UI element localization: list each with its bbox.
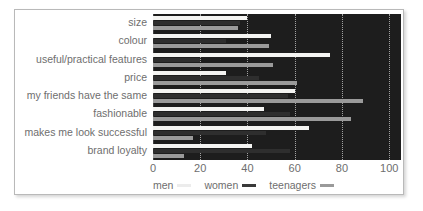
- bar-teenagers: [153, 99, 363, 103]
- legend-label: women: [204, 180, 238, 191]
- bar-teenagers: [153, 117, 351, 121]
- legend-item-women[interactable]: women: [204, 180, 256, 191]
- bar-women: [153, 112, 290, 116]
- bar-women: [153, 94, 288, 98]
- bar-men: [153, 89, 295, 93]
- legend-swatch-icon: [320, 184, 334, 187]
- legend-item-teen[interactable]: teenagers: [269, 180, 334, 191]
- bar-men: [153, 53, 330, 57]
- bar-group: [153, 87, 401, 105]
- bar-group: [153, 51, 401, 69]
- bar-teenagers: [153, 136, 193, 140]
- bar-group: [153, 142, 401, 160]
- bar-women: [153, 131, 266, 135]
- bar-women: [153, 58, 200, 62]
- bar-men: [153, 34, 271, 38]
- category-axis-labels: sizecolouruseful/practical featuresprice…: [15, 14, 151, 160]
- bar-women: [153, 39, 226, 43]
- bar-men: [153, 126, 309, 130]
- bar-group: [153, 105, 401, 123]
- bar-men: [153, 144, 252, 148]
- legend-item-men[interactable]: men: [153, 180, 191, 191]
- legend-swatch-icon: [177, 184, 191, 187]
- x-axis-tick-labels: 020406080100: [153, 162, 401, 178]
- category-label: colour: [13, 35, 147, 46]
- bar-women: [153, 149, 290, 153]
- x-tick-label: 40: [241, 162, 253, 174]
- bar-men: [153, 71, 226, 75]
- legend-swatch-icon: [242, 184, 256, 187]
- bar-teenagers: [153, 154, 184, 158]
- chart-legend: menwomenteenagers: [153, 178, 341, 192]
- x-tick-label: 100: [380, 162, 398, 174]
- bar-women: [153, 21, 240, 25]
- bar-men: [153, 16, 247, 20]
- legend-label: teenagers: [269, 180, 316, 191]
- category-label: useful/practical features: [13, 54, 147, 65]
- category-label: makes me look successful: [13, 127, 147, 138]
- bar-women: [153, 76, 259, 80]
- legend-label: men: [153, 180, 173, 191]
- category-label: my friends have the same: [13, 90, 147, 101]
- category-label: size: [13, 17, 147, 28]
- bar-group: [153, 124, 401, 142]
- bar-group: [153, 14, 401, 32]
- category-label: brand loyalty: [13, 145, 147, 156]
- chart-figure: sizecolouruseful/practical featuresprice…: [14, 9, 404, 195]
- bar-teenagers: [153, 44, 269, 48]
- bar-group: [153, 32, 401, 50]
- x-tick-label: 80: [336, 162, 348, 174]
- x-tick-label: 20: [194, 162, 206, 174]
- bar-teenagers: [153, 63, 273, 67]
- x-tick-label: 0: [150, 162, 156, 174]
- bar-teenagers: [153, 26, 238, 30]
- bar-teenagers: [153, 81, 297, 85]
- x-tick-label: 60: [289, 162, 301, 174]
- bar-group: [153, 69, 401, 87]
- category-label: price: [13, 72, 147, 83]
- plot-area: [153, 14, 401, 160]
- category-label: fashionable: [13, 108, 147, 119]
- bar-men: [153, 107, 264, 111]
